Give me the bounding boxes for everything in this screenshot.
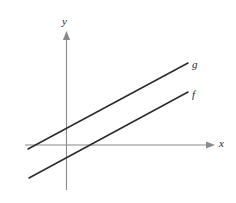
x-axis-label: x: [218, 137, 224, 149]
y-axis-label: y: [61, 15, 67, 27]
figure-root: x y g f: [0, 0, 236, 203]
line-label-g: g: [192, 58, 198, 70]
figure-background: [0, 0, 236, 203]
graph-canvas: x y g f: [0, 0, 236, 203]
